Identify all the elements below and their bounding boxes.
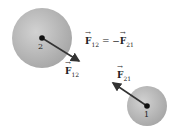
equation-rhs: F bbox=[120, 36, 126, 46]
equation-lhs: F bbox=[85, 36, 91, 46]
sphere-2-label: 2 bbox=[38, 42, 43, 51]
sphere-2-center-dot bbox=[39, 35, 45, 41]
equation-label: F12 = −F21 bbox=[85, 36, 134, 48]
vector-f12-label: F12 bbox=[65, 66, 79, 78]
vector-f21-label: F21 bbox=[117, 70, 131, 82]
diagram-canvas bbox=[0, 0, 179, 132]
sphere-1-center-dot bbox=[144, 103, 150, 109]
sphere-1-label: 1 bbox=[144, 110, 149, 119]
